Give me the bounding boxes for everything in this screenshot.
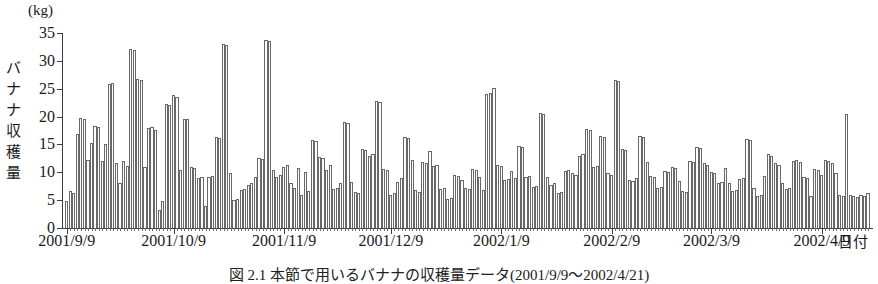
y-axis-title-char: ナ xyxy=(2,100,24,121)
x-tick-minor xyxy=(113,228,114,231)
x-tick-minor xyxy=(850,228,851,231)
x-tick-minor xyxy=(302,228,303,231)
x-tick-minor xyxy=(473,228,474,231)
x-tick-minor xyxy=(765,228,766,231)
x-tick-minor xyxy=(366,228,367,231)
x-tick-minor xyxy=(320,228,321,231)
x-tick-minor xyxy=(227,228,228,231)
x-tick-minor xyxy=(77,228,78,231)
x-tick-minor xyxy=(541,228,542,231)
x-tick-minor xyxy=(797,228,798,231)
y-tick-mark xyxy=(57,200,62,201)
x-tick-minor xyxy=(409,228,410,231)
x-tick-minor xyxy=(808,228,809,231)
x-tick-minor xyxy=(241,228,242,231)
x-tick-minor xyxy=(790,228,791,231)
x-tick-minor xyxy=(537,228,538,231)
x-tick-minor xyxy=(676,228,677,231)
x-tick-minor xyxy=(159,228,160,231)
x-tick-minor xyxy=(134,228,135,231)
x-tick-minor xyxy=(252,228,253,231)
x-tick-minor xyxy=(355,228,356,231)
x-tick-minor xyxy=(188,228,189,231)
x-tick-minor xyxy=(530,228,531,231)
x-tick-minor xyxy=(330,228,331,231)
x-tick-minor xyxy=(505,228,506,231)
x-tick-minor xyxy=(384,228,385,231)
y-axis-line xyxy=(62,33,63,229)
x-tick-minor xyxy=(380,228,381,231)
x-tick-minor xyxy=(861,228,862,231)
x-tick-minor xyxy=(398,228,399,231)
x-tick-minor xyxy=(309,228,310,231)
y-tick-mark xyxy=(57,89,62,90)
y-tick-mark xyxy=(57,117,62,118)
x-tick-minor xyxy=(220,228,221,231)
x-tick-minor xyxy=(608,228,609,231)
x-tick-minor xyxy=(793,228,794,231)
x-tick-minor xyxy=(191,228,192,231)
x-tick-minor xyxy=(854,228,855,231)
x-tick-minor xyxy=(801,228,802,231)
x-tick-minor xyxy=(273,228,274,231)
x-tick-minor xyxy=(719,228,720,231)
x-tick-minor xyxy=(487,228,488,231)
x-tick-minor xyxy=(277,228,278,231)
x-tick-minor xyxy=(142,228,143,231)
x-tick-minor xyxy=(163,228,164,231)
x-tick-minor xyxy=(402,228,403,231)
x-tick-minor xyxy=(833,228,834,231)
x-tick-minor xyxy=(701,228,702,231)
x-tick-minor xyxy=(704,228,705,231)
x-tick-minor xyxy=(726,228,727,231)
x-tick-minor xyxy=(480,228,481,231)
x-tick-minor xyxy=(708,228,709,231)
x-tick-minor xyxy=(152,228,153,231)
x-tick-minor xyxy=(519,228,520,231)
y-tick-label: 25 xyxy=(27,79,55,98)
x-tick-minor xyxy=(601,228,602,231)
x-tick-minor xyxy=(419,228,420,231)
x-tick-minor xyxy=(466,228,467,231)
x-tick-minor xyxy=(327,228,328,231)
x-tick-minor xyxy=(825,228,826,231)
x-tick-minor xyxy=(747,228,748,231)
x-tick-minor xyxy=(448,228,449,231)
x-tick-minor xyxy=(88,228,89,231)
x-tick-minor xyxy=(665,228,666,231)
x-tick-minor xyxy=(729,228,730,231)
y-tick-label: 30 xyxy=(27,51,55,70)
x-tick-minor xyxy=(92,228,93,231)
x-tick-minor xyxy=(548,228,549,231)
x-tick-minor xyxy=(811,228,812,231)
x-tick-minor xyxy=(305,228,306,231)
x-tick-minor xyxy=(248,228,249,231)
x-tick-minor xyxy=(362,228,363,231)
x-tick-minor xyxy=(85,228,86,231)
x-tick-minor xyxy=(672,228,673,231)
x-tick-minor xyxy=(266,228,267,231)
x-tick-label: 2002/3/9 xyxy=(683,232,740,250)
x-tick-minor xyxy=(345,228,346,231)
x-tick-minor xyxy=(427,228,428,231)
x-tick-minor xyxy=(590,228,591,231)
x-tick-minor xyxy=(847,228,848,231)
x-tick-minor xyxy=(779,228,780,231)
x-tick-minor xyxy=(462,228,463,231)
x-tick-minor xyxy=(348,228,349,231)
x-tick-minor xyxy=(683,228,684,231)
x-tick-minor xyxy=(199,228,200,231)
x-tick-minor xyxy=(694,228,695,231)
x-tick-minor xyxy=(637,228,638,231)
x-tick-minor xyxy=(102,228,103,231)
x-tick-minor xyxy=(70,228,71,231)
x-tick-minor xyxy=(858,228,859,231)
x-tick-minor xyxy=(110,228,111,231)
x-tick-minor xyxy=(370,228,371,231)
x-tick-minor xyxy=(715,228,716,231)
x-tick-minor xyxy=(740,228,741,231)
x-tick-minor xyxy=(195,228,196,231)
x-tick-minor xyxy=(587,228,588,231)
x-tick-minor xyxy=(177,228,178,231)
x-tick-minor xyxy=(516,228,517,231)
